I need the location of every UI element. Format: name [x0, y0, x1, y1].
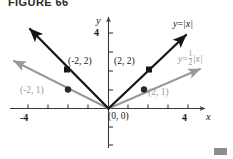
point-2-1-label: (2, 1): [148, 88, 169, 98]
x-axis-label: x: [206, 112, 211, 123]
y-tick-label-4: 4: [94, 28, 99, 38]
point-neg2-2-label: (-2, 2): [68, 57, 92, 67]
point-2-2-label: (2, 2): [114, 57, 135, 67]
eq-half-operator: =: [182, 53, 188, 64]
point-2-1-marker: [141, 86, 147, 92]
point-neg2-1-marker: [65, 86, 71, 92]
x-tick-label-neg4: -4: [20, 113, 28, 123]
point-neg2-1-label: (-2, 1): [20, 86, 44, 96]
eq-half-denominator: 2: [189, 58, 193, 67]
y-axis-label: y: [96, 16, 101, 27]
point-2-2-marker: [146, 67, 152, 73]
y-axis: [109, 17, 114, 148]
curve-absolute-value-equation-label: y=|x|: [173, 19, 193, 29]
plot-canvas: [0, 0, 233, 159]
curve-half-absolute-value-equation-label: y=12|x|: [178, 50, 203, 67]
eq-half-fraction: 12: [189, 50, 193, 67]
figure-container: FIGURE 66: [0, 0, 233, 159]
y-axis-ticks: [109, 33, 114, 145]
x-tick-label-4: 4: [182, 113, 187, 123]
point-origin-label: (0, 0): [108, 112, 129, 122]
eq-half-numerator: 1: [189, 50, 193, 58]
page-corner-mark: [214, 148, 227, 155]
eq-half-rhs: |x|: [193, 53, 203, 64]
eq-abs-rhs: |x|: [183, 18, 193, 29]
point-neg2-2-marker: [64, 67, 70, 73]
